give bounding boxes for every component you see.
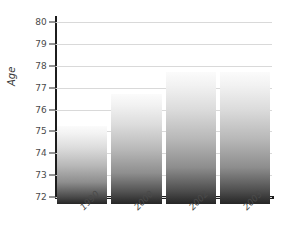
bar[interactable] bbox=[220, 72, 270, 204]
y-axis-tick-label: 72 bbox=[35, 192, 47, 202]
y-axis-tick-mark bbox=[49, 109, 56, 110]
y-axis-tick-mark bbox=[49, 22, 56, 23]
bar-chart: Age 8079787776757473721990200020022003 bbox=[0, 0, 289, 239]
gridline bbox=[55, 44, 272, 45]
y-axis-tick-mark bbox=[49, 131, 56, 132]
y-axis-tick-label: 80 bbox=[35, 17, 47, 27]
y-axis-tick-mark bbox=[49, 197, 56, 198]
y-axis-tick-label: 74 bbox=[35, 148, 47, 158]
y-axis-tick-mark bbox=[49, 175, 56, 176]
plot-area bbox=[55, 22, 272, 197]
y-axis-tick-label: 78 bbox=[35, 61, 47, 71]
y-axis-tick-mark bbox=[49, 43, 56, 44]
gridline bbox=[55, 22, 272, 23]
y-axis-tick-label: 76 bbox=[35, 105, 47, 115]
y-axis-tick-mark bbox=[49, 65, 56, 66]
gridline bbox=[55, 66, 272, 67]
bar[interactable] bbox=[166, 72, 216, 204]
y-axis-tick-label: 77 bbox=[35, 83, 47, 93]
bar[interactable] bbox=[111, 94, 161, 204]
y-axis-title: Age bbox=[6, 67, 17, 86]
bar[interactable] bbox=[57, 126, 107, 204]
y-axis-tick-label: 73 bbox=[35, 170, 47, 180]
y-axis-tick-label: 79 bbox=[35, 39, 47, 49]
y-axis-tick-mark bbox=[49, 87, 56, 88]
y-axis-tick-mark bbox=[49, 153, 56, 154]
y-axis-tick-label: 75 bbox=[35, 126, 47, 136]
